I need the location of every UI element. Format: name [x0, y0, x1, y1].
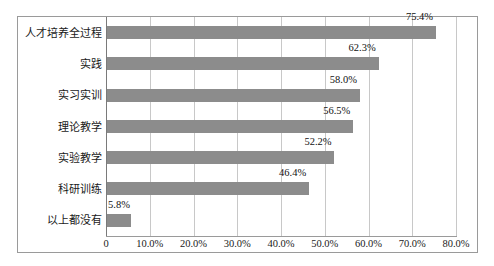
- gridline-80.0%: [456, 17, 457, 236]
- x-tick-label: 60.0%: [355, 237, 382, 251]
- bar-value-label: 52.2%: [304, 136, 331, 148]
- bar-row: 46.4%: [106, 173, 456, 204]
- bar-value-label: 62.3%: [349, 42, 376, 54]
- plot-area: 75.4%62.3%58.0%56.5%52.2%46.4%5.8%: [106, 17, 456, 236]
- bar: [106, 151, 334, 164]
- bar: [106, 57, 379, 70]
- value-axis-line: [106, 17, 107, 236]
- x-tick-label: 50.0%: [311, 237, 338, 251]
- x-tick-label: 30.0%: [224, 237, 251, 251]
- category-label: 理论教学: [2, 120, 106, 134]
- x-tick-label: 40.0%: [267, 237, 294, 251]
- chart-figure: 75.4%62.3%58.0%56.5%52.2%46.4%5.8% 人才培养全…: [0, 0, 494, 266]
- category-axis-labels: 人才培养全过程实践实习实训理论教学实验教学科研训练以上都没有: [0, 17, 106, 236]
- bar: [106, 214, 131, 227]
- category-label: 实习实训: [2, 88, 106, 102]
- category-label: 实验教学: [2, 151, 106, 165]
- x-tick-label: 80.0%: [442, 237, 469, 251]
- value-axis-labels: 010.0%20.0%30.0%40.0%50.0%60.0%70.0%80.0…: [0, 237, 494, 253]
- bar-row: 5.8%: [106, 205, 456, 236]
- bar-value-label: 58.0%: [330, 74, 357, 86]
- bar-value-label: 75.4%: [406, 11, 433, 23]
- bar-value-label: 5.8%: [108, 199, 130, 211]
- x-tick-label: 70.0%: [399, 237, 426, 251]
- x-tick-label: 10.0%: [136, 237, 163, 251]
- bar: [106, 26, 436, 39]
- bar: [106, 120, 353, 133]
- bar-row: 62.3%: [106, 48, 456, 79]
- bar: [106, 182, 309, 195]
- bar-row: 75.4%: [106, 17, 456, 48]
- category-label: 科研训练: [2, 182, 106, 196]
- x-tick-label: 20.0%: [180, 237, 207, 251]
- bar: [106, 89, 360, 102]
- bar-row: 56.5%: [106, 111, 456, 142]
- x-tick-label: 0: [103, 237, 108, 251]
- category-label: 人才培养全过程: [2, 26, 106, 40]
- bar-value-label: 46.4%: [279, 167, 306, 179]
- category-label: 以上都没有: [2, 213, 106, 227]
- bar-row: 58.0%: [106, 80, 456, 111]
- bar-value-label: 56.5%: [323, 105, 350, 117]
- category-label: 实践: [2, 57, 106, 71]
